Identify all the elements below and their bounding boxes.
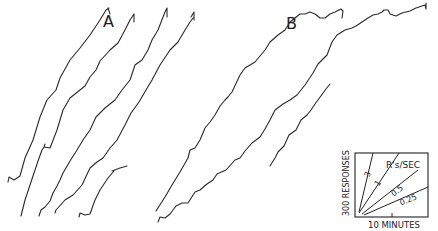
record-a5 [79,166,127,217]
panel-b-records [156,3,426,222]
panel-a-records [8,8,194,217]
legend-ylabel: 300 RESPONSES [342,150,351,216]
record-b1 [156,9,343,211]
record-b3 [270,84,330,166]
cumulative-records: R's/SEC 3 1 0.5 0.25 300 RESPONSES 10 MI… [0,0,438,231]
record-a1 [8,8,110,182]
record-b2 [158,3,426,222]
rate-label-025: 0.25 [398,192,418,207]
record-a2 [21,14,134,216]
legend-xlabel: 10 MINUTES [368,220,420,230]
rate-legend: R's/SEC 3 1 0.5 0.25 300 RESPONSES 10 MI… [342,150,428,230]
rate-label-05: 0.5 [389,183,405,198]
rate-label-3: 3 [363,170,373,178]
legend-title: R's/SEC [386,160,420,170]
